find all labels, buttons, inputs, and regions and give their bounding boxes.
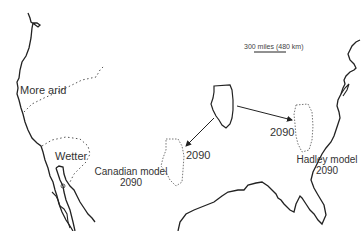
label-more-arid: More arid: [20, 85, 66, 96]
pacific-coastline: [17, 13, 73, 231]
us-map-svg: [0, 0, 364, 231]
scale-bar-label: 300 miles (480 km): [244, 41, 304, 52]
gulf-atlantic-coastline: [178, 40, 360, 231]
arrow-to-hadley: [237, 106, 292, 120]
label-canadian-model: Canadian model 2090: [92, 166, 170, 188]
baja-peninsula: [56, 166, 95, 222]
illinois-hadley-2090-outline: [294, 104, 313, 152]
canadian-model-year: 2090: [92, 177, 170, 188]
label-wetter: Wetter: [55, 151, 87, 162]
hadley-model-name: Hadley model: [290, 154, 364, 165]
label-hadley-model: Hadley model 2090: [290, 154, 364, 176]
canadian-model-name: Canadian model: [92, 166, 170, 177]
hadley-model-year: 2090: [290, 165, 364, 176]
illinois-current-outline: [211, 85, 233, 128]
label-canadian-arrow-year: 2090: [186, 150, 210, 161]
label-hadley-arrow-year: 2090: [270, 127, 294, 138]
arrow-to-canadian: [186, 118, 214, 146]
